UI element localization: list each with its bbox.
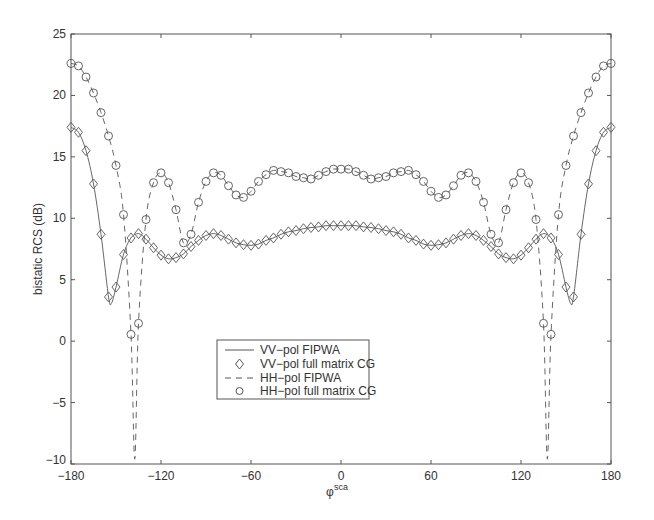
circle-marker <box>450 182 458 190</box>
circle-marker <box>360 171 368 179</box>
vv-pol-full-matrix-cg-series <box>67 122 615 302</box>
y-axis-ticks: −10−50510152025 <box>46 27 611 467</box>
circle-marker <box>420 177 428 185</box>
legend-label: HH−pol FIPWA <box>260 371 341 385</box>
circle-marker <box>285 169 293 177</box>
x-tick-label: 180 <box>601 469 621 483</box>
circle-marker <box>255 177 263 185</box>
y-axis-label: bistatic RCS (dB) <box>31 203 45 295</box>
circle-marker <box>157 169 165 177</box>
circle-marker <box>225 182 233 190</box>
circle-marker <box>390 169 398 177</box>
x-tick-label: −180 <box>57 469 84 483</box>
circle-marker <box>487 230 495 238</box>
circle-marker <box>472 177 480 185</box>
circle-marker <box>307 175 315 183</box>
x-tick-label: 60 <box>424 469 438 483</box>
circle-marker <box>600 62 608 70</box>
circle-marker <box>585 89 593 97</box>
circle-marker <box>412 171 420 179</box>
y-tick-label: 25 <box>53 27 67 41</box>
x-axis-label-sup: sca <box>334 482 348 492</box>
svg-text:φsca: φsca <box>326 482 348 499</box>
rcs-chart: −180−120−60060120180 −10−50510152025 bis… <box>0 0 654 520</box>
circle-marker <box>495 239 503 247</box>
vv-pol-fipwa-series <box>71 127 611 305</box>
circle-marker <box>457 171 465 179</box>
legend-label: HH−pol full matrix CG <box>260 384 376 398</box>
plot-area: −180−120−60060120180 −10−50510152025 <box>46 27 622 483</box>
circle-marker <box>217 171 225 179</box>
x-axis-ticks: −180−120−60060120180 <box>57 34 621 483</box>
legend-label: VV−pol full matrix CG <box>260 357 375 371</box>
y-tick-label: −10 <box>46 453 67 467</box>
circle-marker <box>315 171 323 179</box>
circle-marker <box>82 73 90 81</box>
circle-marker <box>570 132 578 140</box>
legend: VV−pol FIPWA VV−pol full matrix CG HH−po… <box>217 340 376 399</box>
x-tick-label: −120 <box>147 469 174 483</box>
legend-label: VV−pol FIPWA <box>260 343 340 357</box>
circle-marker <box>442 191 450 199</box>
x-axis-label: φsca <box>326 482 348 499</box>
circle-marker <box>165 179 173 187</box>
y-tick-label: 15 <box>53 150 67 164</box>
series-line <box>71 127 611 305</box>
circle-marker <box>517 169 525 177</box>
circle-marker <box>195 198 203 206</box>
circle-marker <box>75 62 83 70</box>
y-tick-label: 5 <box>59 273 66 287</box>
circle-marker <box>187 230 195 238</box>
y-tick-label: 0 <box>59 334 66 348</box>
series-line <box>71 64 611 460</box>
x-tick-label: −60 <box>241 469 262 483</box>
x-tick-label: 120 <box>511 469 531 483</box>
circle-marker <box>480 198 488 206</box>
y-tick-label: 20 <box>53 88 67 102</box>
circle-marker <box>232 191 240 199</box>
circle-marker <box>525 179 533 187</box>
x-tick-label: 0 <box>338 469 345 483</box>
circle-marker <box>90 89 98 97</box>
y-tick-label: −5 <box>52 396 66 410</box>
circle-marker <box>202 177 210 185</box>
circle-marker <box>367 175 375 183</box>
hh-pol-fipwa-series <box>71 64 611 460</box>
y-tick-label: 10 <box>53 211 67 225</box>
circle-marker <box>105 132 113 140</box>
circle-marker <box>510 179 518 187</box>
